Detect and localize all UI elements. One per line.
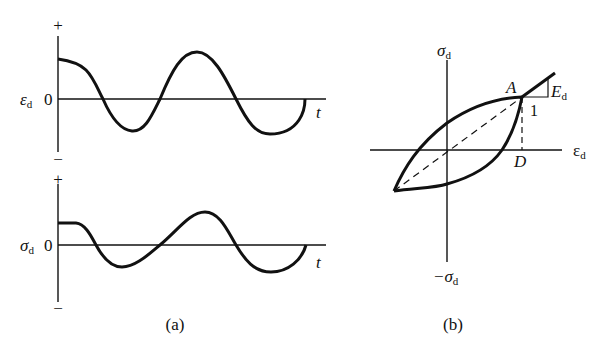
hysteresis-plot: σd −σd εd A D Ed 1 xyxy=(370,41,586,287)
sigma-bottom-label: −σd xyxy=(433,267,459,287)
strain-curve xyxy=(58,52,305,134)
figure-canvas: + − εd 0 t + − σd 0 t (a) σd −σd εd A xyxy=(0,0,605,357)
modulus-label: Ed xyxy=(550,82,567,102)
secant-dashed-line xyxy=(394,97,522,191)
strain-zero-label: 0 xyxy=(44,90,53,109)
strain-time-plot: + − εd 0 t xyxy=(20,16,326,169)
strain-minus-sign: − xyxy=(53,150,63,169)
strain-time-label: t xyxy=(316,103,322,122)
epsilon-axis-label: εd xyxy=(573,141,586,161)
point-a-label: A xyxy=(505,78,517,97)
slope-run-label: 1 xyxy=(530,102,538,119)
stress-minus-sign: − xyxy=(53,299,63,318)
stress-time-plot: + − σd 0 t xyxy=(20,170,326,318)
panel-a-caption: (a) xyxy=(166,315,185,334)
stress-zero-label: 0 xyxy=(44,236,53,255)
stress-time-label: t xyxy=(316,253,322,272)
sigma-top-label: σd xyxy=(437,41,451,61)
strain-y-label: εd xyxy=(20,90,33,110)
strain-plus-sign: + xyxy=(53,16,63,35)
stress-curve xyxy=(58,212,306,272)
stress-plus-sign: + xyxy=(53,170,63,189)
point-d-label: D xyxy=(513,152,527,171)
panel-b-caption: (b) xyxy=(443,315,463,334)
stress-y-label: σd xyxy=(20,236,34,256)
